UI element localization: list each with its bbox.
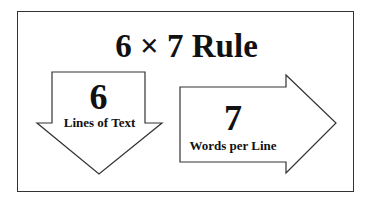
lines-label: Lines of Text — [37, 116, 162, 129]
lines-count: 6 — [52, 79, 145, 115]
words-label: Words per Line — [180, 139, 286, 152]
diagram-title: 6 × 7 Rule — [0, 30, 373, 63]
words-count: 7 — [180, 100, 286, 136]
